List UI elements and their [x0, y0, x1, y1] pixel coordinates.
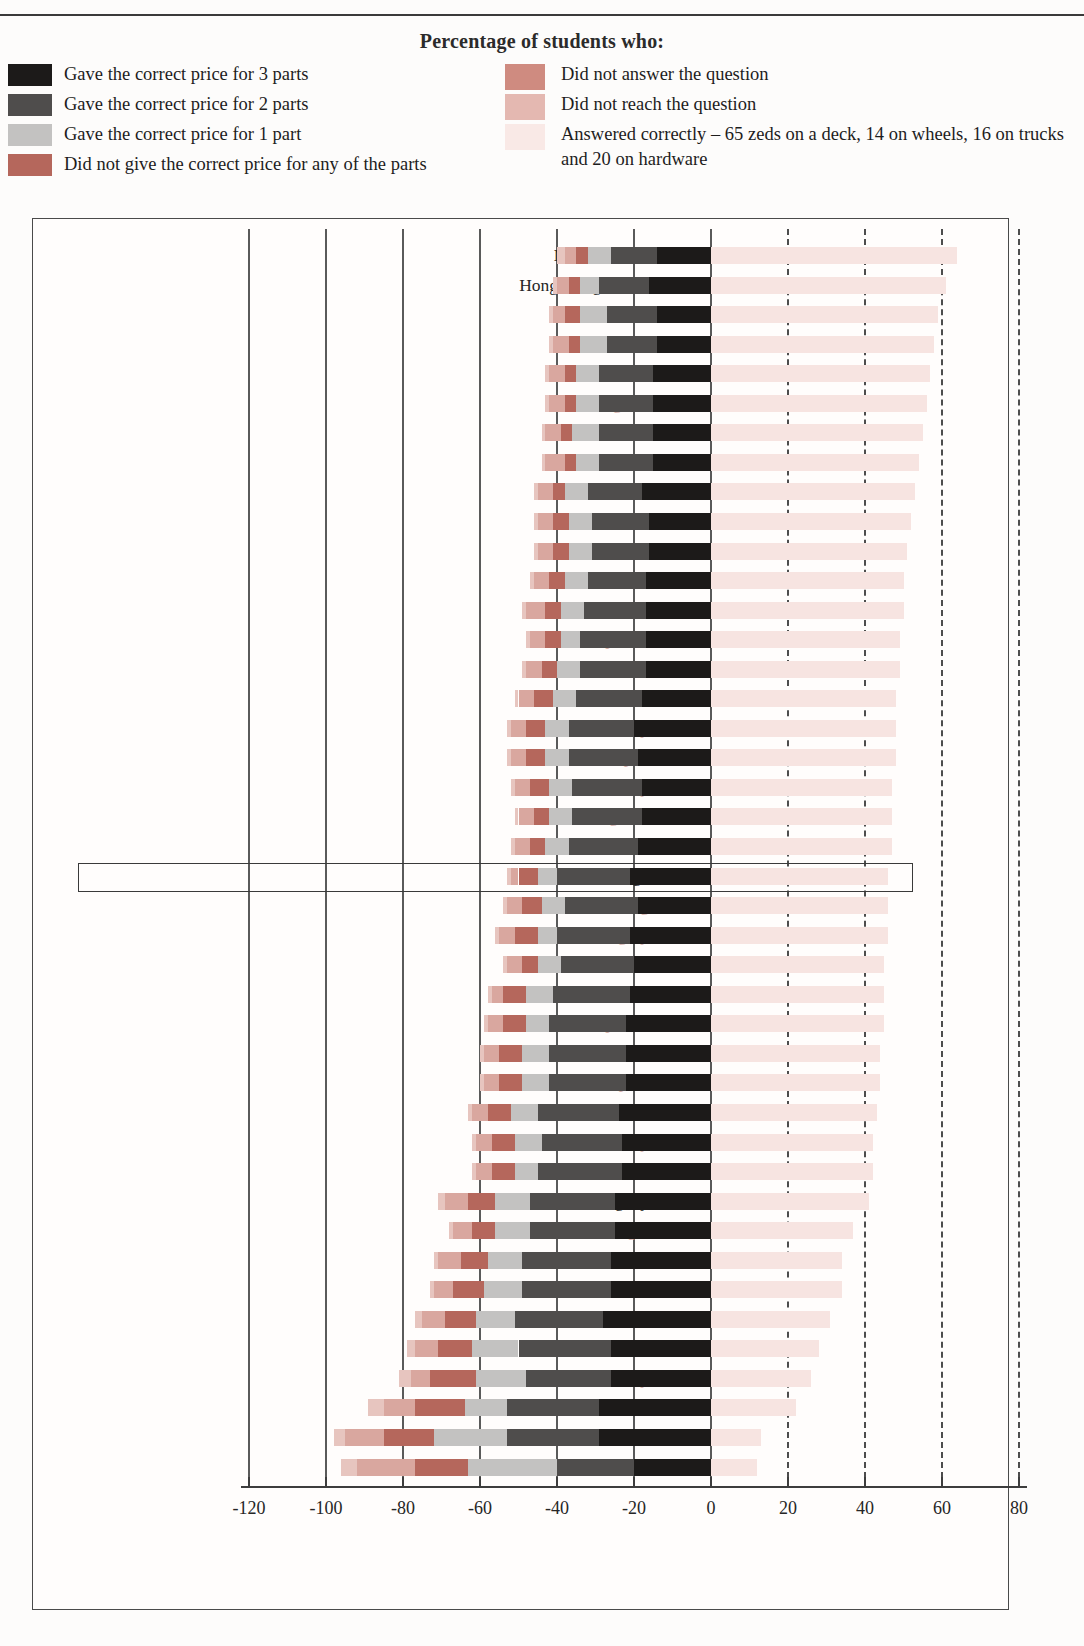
bar-segment-sna: [538, 513, 553, 530]
bar-segment-s0: [472, 1222, 495, 1239]
bar-segment-s0: [569, 336, 581, 353]
axis-tick: [864, 1477, 866, 1486]
legend-title: Percentage of students who:: [0, 30, 1084, 53]
chart-row: Poland: [33, 1157, 1008, 1187]
bar-segment-s1: [549, 779, 572, 796]
bar-segment-sok: [711, 1399, 796, 1416]
bar-segment-s1: [576, 395, 599, 412]
legend-swatch-correct: [505, 124, 545, 150]
legend-item: Did not answer the question: [505, 62, 1080, 91]
axis-tick-label: -40: [527, 1498, 587, 1519]
bar-segment-snr: [522, 602, 526, 619]
bar-segment-sok: [711, 720, 896, 737]
bar-segment-s3: [642, 779, 711, 796]
axis-tick: [248, 1477, 250, 1486]
bar-segment-sok: [711, 749, 896, 766]
bar-segment-sok: [711, 1104, 877, 1121]
bar-segment-s0: [561, 424, 573, 441]
bar-segment-sna: [357, 1459, 415, 1476]
axis-tick-label: -100: [296, 1498, 356, 1519]
bar-segment-s0: [453, 1281, 484, 1298]
bar-segment-s1: [515, 1163, 538, 1180]
chart-row: Canada: [33, 330, 1008, 360]
bar-segment-s2: [569, 720, 634, 737]
bar-segment-s0: [445, 1311, 476, 1328]
chart-row: Hungary: [33, 921, 1008, 951]
bar-segment-s1: [484, 1281, 523, 1298]
bar-segment-s2: [599, 454, 653, 471]
bar-segment-sna: [538, 483, 553, 500]
x-axis-line: [241, 1486, 1026, 1488]
bar-segment-snr: [399, 1370, 411, 1387]
bar-segment-s3: [653, 424, 711, 441]
bar-segment-snr: [534, 543, 538, 560]
bar-segment-snr: [449, 1222, 453, 1239]
bar-segment-s2: [557, 1459, 634, 1476]
axis-tick: [787, 1477, 789, 1486]
bar-segment-sok: [711, 1045, 880, 1062]
bar-segment-s3: [626, 1074, 711, 1091]
bar-segment-s0: [438, 1340, 473, 1357]
bar-segment-snr: [472, 1134, 476, 1151]
bar-segment-s3: [649, 277, 711, 294]
bar-segment-s3: [642, 483, 711, 500]
bar-segment-s2: [572, 808, 641, 825]
bar-segment-sna: [415, 1340, 438, 1357]
chart-row: Finland: [33, 300, 1008, 330]
legend-label: Gave the correct price for 2 parts: [64, 92, 528, 117]
bar-segment-s1: [557, 661, 580, 678]
bar-segment-sna: [434, 1281, 453, 1298]
bar-segment-s3: [599, 1429, 711, 1446]
bar-segment-s0: [565, 454, 577, 471]
bar-segment-sok: [711, 808, 892, 825]
bar-segment-s0: [553, 543, 568, 560]
bar-segment-s3: [634, 1459, 711, 1476]
bar-segment-s3: [626, 1045, 711, 1062]
bar-segment-snr: [511, 779, 515, 796]
axis-tick-label: 60: [912, 1498, 972, 1519]
chart-row: Greece: [33, 1246, 1008, 1276]
axis-tick-label: 20: [758, 1498, 818, 1519]
bar-segment-s2: [553, 986, 630, 1003]
bar-segment-s3: [653, 395, 711, 412]
bar-segment-s3: [653, 454, 711, 471]
bar-segment-s2: [549, 1045, 626, 1062]
bar-segment-snr: [415, 1311, 423, 1328]
bar-segment-sna: [545, 424, 560, 441]
chart-row: Switzerland: [33, 655, 1008, 685]
bar-segment-s1: [522, 1045, 549, 1062]
bar-segment-s0: [534, 690, 553, 707]
bar-segment-snr: [545, 395, 549, 412]
bar-segment-snr: [407, 1340, 415, 1357]
bar-segment-s1: [542, 897, 565, 914]
bar-segment-s1: [522, 1074, 549, 1091]
bar-segment-sna: [565, 247, 577, 264]
bar-segment-s3: [611, 1281, 711, 1298]
bar-segment-sna: [519, 690, 534, 707]
bar-segment-s0: [545, 602, 560, 619]
bar-segment-s3: [646, 602, 711, 619]
bar-segment-sok: [711, 838, 892, 855]
bar-segment-s3: [622, 1134, 711, 1151]
bar-segment-s2: [599, 365, 653, 382]
axis-tick-label: -80: [373, 1498, 433, 1519]
bar-segment-s2: [522, 1281, 611, 1298]
bar-segment-sna: [484, 1074, 499, 1091]
bar-segment-sok: [711, 424, 923, 441]
legend-label: Gave the correct price for 1 part: [64, 122, 528, 147]
legend-label: Gave the correct price for 3 parts: [64, 62, 528, 87]
chart-row: Brazil: [33, 1393, 1008, 1423]
bar-segment-s1: [468, 1459, 557, 1476]
chart-row: France: [33, 596, 1008, 626]
chart-row: Denmark: [33, 684, 1008, 714]
bar-segment-s3: [657, 336, 711, 353]
bar-segment-sna: [557, 277, 569, 294]
chart-row: United States: [33, 1039, 1008, 1069]
bar-segment-sok: [711, 690, 896, 707]
bar-segment-s2: [522, 1252, 611, 1269]
bar-segment-s2: [569, 749, 638, 766]
bar-segment-s0: [415, 1399, 465, 1416]
legend-label: Answered correctly – 65 zeds on a deck, …: [561, 122, 1080, 172]
bar-segment-s2: [592, 543, 650, 560]
legend-label: Did not answer the question: [561, 62, 1080, 87]
